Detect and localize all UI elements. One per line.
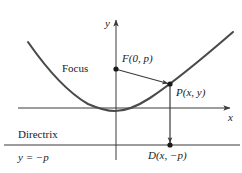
focus-point-label: F(0, p) (122, 53, 153, 64)
curve-point-label: P(x, y) (176, 87, 205, 98)
directrix-word-label: Directrix (18, 129, 58, 140)
focal-radius-segment (117, 70, 168, 84)
curve-point-dot (167, 81, 172, 86)
directrix-equation-label: y = −p (18, 152, 49, 163)
parabola-curve (28, 32, 233, 111)
y-axis-label: y (105, 18, 110, 29)
figure-canvas (0, 0, 242, 173)
directrix-point-label: D(x, −p) (148, 150, 187, 161)
directrix-point-dot (167, 142, 172, 147)
parabola-figure: Focus F(0, p) P(x, y) D(x, −p) Directrix… (0, 0, 242, 173)
focus-word-label: Focus (62, 63, 88, 74)
x-axis-label: x (228, 112, 233, 123)
focus-point-dot (113, 66, 118, 71)
